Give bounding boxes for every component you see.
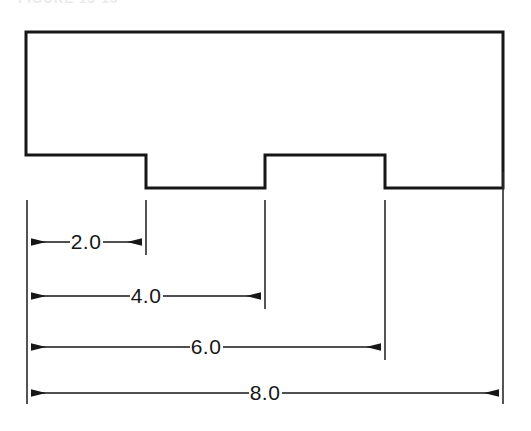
technical-drawing-canvas: 2.0 4.0 6.0 8.0 bbox=[0, 0, 531, 431]
dimension-8-label: 8.0 bbox=[250, 381, 281, 404]
dimension-6: 6.0 bbox=[31, 335, 381, 358]
part-outline bbox=[26, 32, 503, 188]
dimension-4-label: 4.0 bbox=[131, 284, 162, 307]
dimension-8: 8.0 bbox=[31, 381, 499, 404]
dimension-2-label: 2.0 bbox=[71, 230, 102, 253]
dimension-4: 4.0 bbox=[31, 284, 261, 307]
drawing-page: FIGURE 13-13 2.0 4.0 bbox=[0, 0, 531, 431]
dimension-6-label: 6.0 bbox=[191, 335, 222, 358]
dimension-2: 2.0 bbox=[31, 230, 142, 253]
